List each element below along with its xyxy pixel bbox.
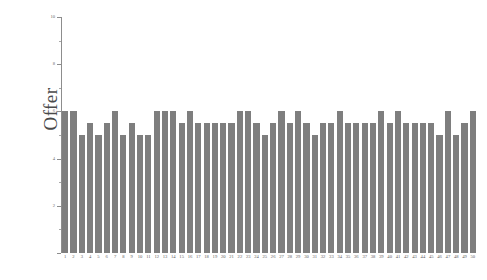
x-tick-label: 25 bbox=[263, 255, 268, 260]
bar bbox=[370, 123, 376, 253]
x-tick-label: 34 bbox=[337, 255, 342, 260]
bar bbox=[287, 123, 293, 253]
x-tick-label: 20 bbox=[221, 255, 226, 260]
bar bbox=[204, 123, 210, 253]
x-tick-label: 49 bbox=[462, 255, 467, 260]
x-tick-label: 46 bbox=[437, 255, 442, 260]
bar bbox=[112, 111, 118, 253]
bar bbox=[120, 135, 126, 253]
bar bbox=[312, 135, 318, 253]
x-tick-label: 15 bbox=[179, 255, 184, 260]
bar bbox=[278, 111, 284, 253]
bar bbox=[79, 135, 85, 253]
bar bbox=[428, 123, 434, 253]
bar bbox=[145, 135, 151, 253]
bar bbox=[179, 123, 185, 253]
bar bbox=[195, 123, 201, 253]
x-tick-label: 22 bbox=[238, 255, 243, 260]
x-tick-label: 14 bbox=[171, 255, 176, 260]
x-tick-label: 29 bbox=[296, 255, 301, 260]
bar bbox=[328, 123, 334, 253]
bar-chart-figure: Offer 246810 123456789101112131415161718… bbox=[0, 0, 487, 280]
bar bbox=[154, 111, 160, 253]
bar bbox=[170, 111, 176, 253]
x-tick-label: 26 bbox=[271, 255, 276, 260]
x-tick-label: 48 bbox=[454, 255, 459, 260]
x-tick-label: 37 bbox=[362, 255, 367, 260]
x-tick-label: 31 bbox=[312, 255, 317, 260]
bar bbox=[70, 111, 76, 253]
y-tick-label: 6 bbox=[53, 109, 55, 114]
x-tick-label: 36 bbox=[354, 255, 359, 260]
bar bbox=[470, 111, 476, 253]
x-tick-label: 50 bbox=[471, 255, 476, 260]
x-tick-label: 40 bbox=[387, 255, 392, 260]
bar bbox=[62, 111, 68, 253]
bar bbox=[220, 123, 226, 253]
x-tick-label: 13 bbox=[163, 255, 168, 260]
bar bbox=[420, 123, 426, 253]
bar bbox=[237, 111, 243, 253]
x-tick-label: 17 bbox=[196, 255, 201, 260]
x-tick-label: 12 bbox=[154, 255, 159, 260]
x-tick-label: 43 bbox=[412, 255, 417, 260]
bar bbox=[187, 111, 193, 253]
bar bbox=[253, 123, 259, 253]
x-tick-label: 35 bbox=[346, 255, 351, 260]
bar bbox=[461, 123, 467, 253]
bar bbox=[412, 123, 418, 253]
x-tick-label: 23 bbox=[246, 255, 251, 260]
x-tick-label: 11 bbox=[146, 255, 150, 260]
x-tick-label: 9 bbox=[131, 255, 133, 260]
x-tick-label: 18 bbox=[204, 255, 209, 260]
x-tick-label: 39 bbox=[379, 255, 384, 260]
x-tick-label: 10 bbox=[138, 255, 143, 260]
bar bbox=[137, 135, 143, 253]
x-tick-label: 7 bbox=[114, 255, 116, 260]
bar bbox=[104, 123, 110, 253]
x-tick-label: 6 bbox=[106, 255, 108, 260]
x-tick-label: 19 bbox=[213, 255, 218, 260]
x-tick-label: 45 bbox=[429, 255, 434, 260]
x-tick-label: 44 bbox=[421, 255, 426, 260]
bar bbox=[228, 123, 234, 253]
x-tick-label: 47 bbox=[446, 255, 451, 260]
x-tick-label: 28 bbox=[288, 255, 293, 260]
bar bbox=[353, 123, 359, 253]
x-tick-label: 32 bbox=[321, 255, 326, 260]
x-tick-label: 33 bbox=[329, 255, 334, 260]
bar bbox=[387, 123, 393, 253]
x-tick-label: 24 bbox=[254, 255, 259, 260]
x-tick-label: 38 bbox=[371, 255, 376, 260]
x-tick-label: 2 bbox=[72, 255, 74, 260]
bar bbox=[345, 123, 351, 253]
bar bbox=[453, 135, 459, 253]
x-tick-label: 3 bbox=[81, 255, 83, 260]
bar bbox=[303, 123, 309, 253]
bar bbox=[378, 111, 384, 253]
y-tick-label: 8 bbox=[53, 62, 55, 67]
bar bbox=[337, 111, 343, 253]
bar bbox=[320, 123, 326, 253]
y-tick-label: 4 bbox=[53, 156, 55, 161]
bar bbox=[212, 123, 218, 253]
x-tick-label: 42 bbox=[404, 255, 409, 260]
x-tick-label: 27 bbox=[279, 255, 284, 260]
plot-area: 246810 bbox=[61, 17, 477, 253]
bar bbox=[95, 135, 101, 253]
bar bbox=[162, 111, 168, 253]
bar bbox=[295, 111, 301, 253]
bar bbox=[87, 123, 93, 253]
x-tick-label: 1 bbox=[64, 255, 66, 260]
x-tick-label: 8 bbox=[122, 255, 124, 260]
x-tick-label: 30 bbox=[304, 255, 309, 260]
bar bbox=[445, 111, 451, 253]
y-tick-mark bbox=[57, 253, 61, 254]
bar bbox=[403, 123, 409, 253]
x-tick-label: 21 bbox=[229, 255, 234, 260]
bars-layer bbox=[61, 17, 477, 253]
bar bbox=[129, 123, 135, 253]
bar bbox=[395, 111, 401, 253]
bar bbox=[245, 111, 251, 253]
y-tick-label: 2 bbox=[53, 204, 55, 209]
